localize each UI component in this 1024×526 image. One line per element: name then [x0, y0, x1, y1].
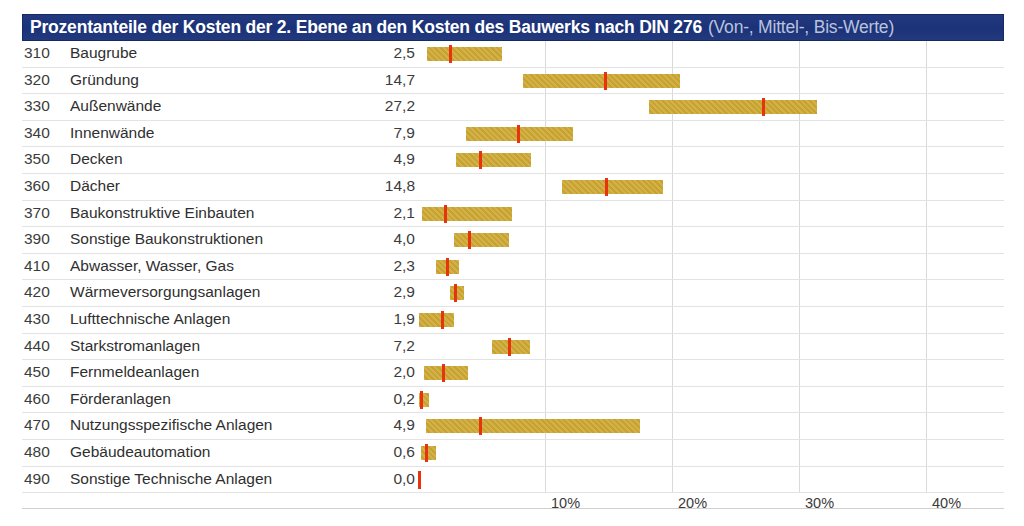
row-plot: [418, 254, 1004, 280]
row-plot: [418, 94, 1004, 120]
mean-marker: [454, 284, 457, 302]
row-value: 27,2: [322, 97, 415, 115]
row-plot: [418, 174, 1004, 200]
row-plot: [418, 307, 1004, 333]
row-code: 410: [24, 257, 64, 275]
row-code: 320: [24, 71, 64, 89]
table-row[interactable]: 390Sonstige Baukonstruktionen4,0: [22, 227, 1004, 254]
row-value: 7,9: [322, 124, 415, 142]
mean-marker: [479, 417, 482, 435]
row-value: 4,9: [322, 150, 415, 168]
row-label: Baukonstruktive Einbauten: [70, 204, 254, 222]
row-label: Gründung: [70, 71, 139, 89]
row-plot: [418, 201, 1004, 227]
range-bar: [426, 419, 641, 433]
row-code: 330: [24, 97, 64, 115]
mean-marker: [441, 311, 444, 329]
row-value: 2,3: [322, 257, 415, 275]
row-label: Wärmeversorgungsanlagen: [70, 283, 260, 301]
row-plot: [418, 387, 1004, 413]
table-row[interactable]: 460Förderanlagen0,2: [22, 387, 1004, 414]
table-row[interactable]: 440Starkstromanlagen7,2: [22, 334, 1004, 361]
range-bar: [454, 233, 510, 247]
table-row[interactable]: 350Decken4,9: [22, 147, 1004, 174]
row-code: 360: [24, 177, 64, 195]
row-plot: [418, 41, 1004, 67]
mean-marker: [446, 258, 449, 276]
mean-marker: [425, 444, 428, 462]
range-bar: [456, 153, 531, 167]
row-code: 310: [24, 44, 64, 62]
row-value: 7,2: [322, 337, 415, 355]
row-label: Lufttechnische Anlagen: [70, 310, 230, 328]
row-plot: [418, 227, 1004, 253]
row-label: Dächer: [70, 177, 120, 195]
row-label: Sonstige Baukonstruktionen: [70, 230, 263, 248]
row-value: 0,2: [322, 390, 415, 408]
table-row[interactable]: 490Sonstige Technische Anlagen0,0: [22, 467, 1004, 494]
row-value: 2,5: [322, 44, 415, 62]
table-row[interactable]: 480Gebäudeautomation0,6: [22, 440, 1004, 467]
chart-body: 10%20%30%40% 310Baugrube2,5320Gründung14…: [22, 41, 1004, 511]
row-code: 340: [24, 124, 64, 142]
row-value: 14,7: [322, 71, 415, 89]
row-plot: [418, 334, 1004, 360]
mean-marker: [508, 338, 511, 356]
table-row[interactable]: 420Wärmeversorgungsanlagen2,9: [22, 280, 1004, 307]
row-code: 350: [24, 150, 64, 168]
mean-marker: [468, 231, 471, 249]
range-bar: [421, 446, 436, 460]
mean-marker: [604, 72, 607, 90]
mean-marker: [449, 45, 452, 63]
mean-marker: [517, 125, 520, 143]
chart-rows: 310Baugrube2,5320Gründung14,7330Außenwän…: [22, 41, 1004, 493]
table-row[interactable]: 360Dächer14,8: [22, 174, 1004, 201]
row-code: 440: [24, 337, 64, 355]
mean-marker: [444, 205, 447, 223]
row-value: 2,9: [322, 283, 415, 301]
chart-title-bar: Prozentanteile der Kosten der 2. Ebene a…: [22, 14, 1004, 41]
row-label: Baugrube: [70, 44, 137, 62]
row-label: Gebäudeautomation: [70, 443, 210, 461]
row-plot: [418, 360, 1004, 386]
row-code: 420: [24, 283, 64, 301]
row-label: Abwasser, Wasser, Gas: [70, 257, 234, 275]
row-value: 2,1: [322, 204, 415, 222]
row-code: 490: [24, 470, 64, 488]
table-row[interactable]: 340Innenwände7,9: [22, 121, 1004, 148]
row-label: Außenwände: [70, 97, 161, 115]
row-label: Innenwände: [70, 124, 154, 142]
mean-marker: [420, 391, 423, 409]
row-label: Förderanlagen: [70, 390, 171, 408]
row-value: 0,6: [322, 443, 415, 461]
row-code: 370: [24, 204, 64, 222]
table-row[interactable]: 310Baugrube2,5: [22, 41, 1004, 68]
range-bar: [523, 74, 679, 88]
row-value: 4,0: [322, 230, 415, 248]
row-code: 480: [24, 443, 64, 461]
row-label: Sonstige Technische Anlagen: [70, 470, 272, 488]
row-label: Fernmeldeanlagen: [70, 363, 199, 381]
table-row[interactable]: 450Fernmeldeanlagen2,0: [22, 360, 1004, 387]
table-row[interactable]: 330Außenwände27,2: [22, 94, 1004, 121]
row-value: 14,8: [322, 177, 415, 195]
row-value: 0,0: [322, 470, 415, 488]
table-row[interactable]: 430Lufttechnische Anlagen1,9: [22, 307, 1004, 334]
table-row[interactable]: 320Gründung14,7: [22, 68, 1004, 95]
range-bar: [649, 100, 817, 114]
row-plot: [418, 68, 1004, 94]
table-row[interactable]: 410Abwasser, Wasser, Gas2,3: [22, 254, 1004, 281]
row-plot: [418, 440, 1004, 466]
row-plot: [418, 467, 1004, 493]
row-code: 430: [24, 310, 64, 328]
page-title: Prozentanteile der Kosten der 2. Ebene a…: [30, 17, 702, 38]
row-code: 390: [24, 230, 64, 248]
range-bar: [562, 180, 664, 194]
table-row[interactable]: 470Nutzungsspezifische Anlagen4,9: [22, 413, 1004, 440]
row-label: Nutzungsspezifische Anlagen: [70, 416, 273, 434]
row-plot: [418, 147, 1004, 173]
row-code: 460: [24, 390, 64, 408]
row-plot: [418, 413, 1004, 439]
bottom-divider: [22, 508, 1004, 509]
table-row[interactable]: 370Baukonstruktive Einbauten2,1: [22, 201, 1004, 228]
